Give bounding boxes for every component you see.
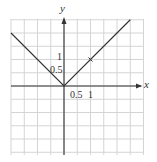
y-axis-label: y <box>60 3 65 14</box>
y-axis-arrow-icon <box>62 17 67 24</box>
x-tick-label-1: 1 <box>88 90 93 100</box>
curve <box>11 20 130 86</box>
y-tick-label-0.5: 0.5 <box>50 65 63 75</box>
grid <box>11 19 144 155</box>
x-axis-arrow-icon <box>136 84 142 89</box>
series-line <box>11 20 130 86</box>
y-tick-label-1: 1 <box>57 52 62 62</box>
axes <box>11 17 142 155</box>
plot-area <box>0 0 157 162</box>
x-tick-label-0.5: 0.5 <box>70 90 83 100</box>
x-axis-label: x <box>144 79 149 90</box>
